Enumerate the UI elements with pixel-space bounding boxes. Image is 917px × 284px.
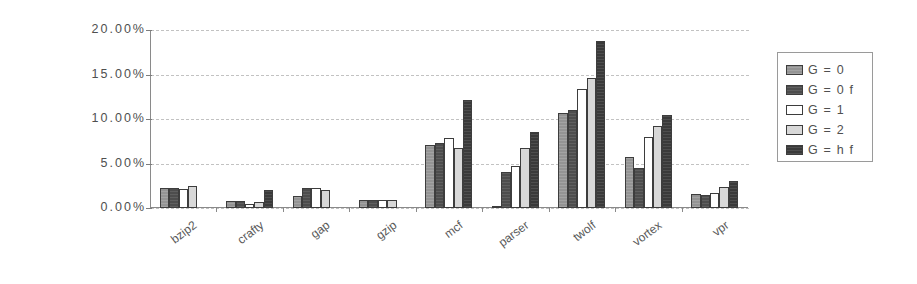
x-axis-labels: bzip2craftygapgzipmcfparsertwolfvortexvp… (150, 208, 748, 284)
bar (302, 188, 311, 208)
legend-item: G = h f (786, 140, 872, 160)
bar (293, 196, 302, 208)
bar (435, 143, 444, 208)
bar-group (682, 30, 748, 208)
bar-group (482, 30, 548, 208)
y-axis-tick-label: 5.00% (34, 156, 146, 170)
bar (691, 194, 700, 208)
bar-group (216, 30, 282, 208)
legend-swatch-icon (786, 105, 803, 115)
legend-swatch-icon (786, 145, 803, 155)
bar (188, 186, 197, 208)
legend-swatch-icon (786, 125, 803, 135)
bar (644, 137, 653, 208)
y-axis-tick-label: 20.00% (34, 22, 146, 36)
bar (368, 200, 377, 208)
bar (387, 200, 396, 208)
bar (729, 181, 738, 208)
bar (558, 113, 567, 208)
bar-group (349, 30, 415, 208)
y-axis-tick-label: 10.00% (34, 111, 146, 125)
bar (321, 190, 330, 208)
bar (378, 200, 387, 208)
legend-label: G = 1 (808, 103, 845, 117)
y-axis-tick-label: 0.00% (34, 200, 146, 214)
bar (625, 157, 634, 208)
bar-groups (150, 30, 748, 208)
bar (311, 188, 320, 208)
bar (653, 126, 662, 208)
legend-swatch-icon (786, 65, 803, 75)
bar-group (416, 30, 482, 208)
bar (454, 148, 463, 208)
bar (568, 110, 577, 208)
bar (359, 200, 368, 208)
legend-label: G = h f (808, 143, 854, 157)
bar (169, 188, 178, 208)
legend-swatch-icon (786, 85, 803, 95)
bar-group (283, 30, 349, 208)
legend-label: G = 2 (808, 123, 845, 137)
bar-group (615, 30, 681, 208)
bar (501, 172, 510, 208)
bar (530, 132, 539, 208)
legend-item: G = 0 (786, 60, 872, 80)
bar (634, 168, 643, 208)
legend-label: G = 0 (808, 63, 845, 77)
bar (160, 188, 169, 208)
y-axis-labels: 20.00%15.00%10.00%5.00%0.00% (28, 30, 146, 208)
chart-legend: G = 0G = 0 fG = 1G = 2G = h f (777, 52, 873, 162)
bar-chart: 20.00%15.00%10.00%5.00%0.00% bzip2crafty… (0, 0, 917, 284)
legend-label: G = 0 f (808, 83, 854, 97)
bar (463, 100, 472, 208)
bar (662, 115, 671, 208)
bar-group (549, 30, 615, 208)
bar (236, 201, 245, 208)
bar (520, 148, 529, 208)
bar (179, 189, 188, 208)
legend-item: G = 0 f (786, 80, 872, 100)
bar (264, 190, 273, 208)
bar (587, 78, 596, 208)
legend-item: G = 2 (786, 120, 872, 140)
y-axis-tick-label: 15.00% (34, 67, 146, 81)
bar (596, 41, 605, 208)
bar-group (150, 30, 216, 208)
bar (226, 201, 235, 208)
bar (511, 166, 520, 208)
bar (701, 195, 710, 208)
bar (710, 193, 719, 208)
bar (444, 138, 453, 208)
bar (577, 89, 586, 208)
bar (425, 145, 434, 208)
legend-item: G = 1 (786, 100, 872, 120)
bar (719, 187, 728, 208)
